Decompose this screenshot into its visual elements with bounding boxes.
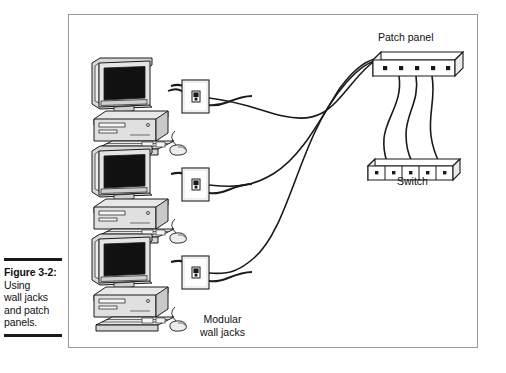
caption-line-4: panels. bbox=[4, 316, 62, 329]
patch-panel bbox=[373, 52, 463, 76]
switch-port-4 bbox=[426, 171, 429, 174]
switch-label: Switch bbox=[397, 175, 428, 188]
caption-line-2: wall jacks bbox=[4, 291, 62, 304]
switch-port-5 bbox=[443, 171, 446, 174]
patch-panel-label: Patch panel bbox=[378, 31, 433, 44]
wall-jack-top bbox=[182, 80, 209, 113]
caption-line-3: and patch bbox=[4, 304, 62, 317]
cable-run-top bbox=[209, 56, 385, 118]
patch-port-3 bbox=[415, 66, 419, 70]
horizontal-cable-runs bbox=[209, 56, 385, 273]
patch-cords bbox=[384, 76, 439, 162]
switch-port-1 bbox=[375, 171, 378, 174]
patch-port-1 bbox=[383, 66, 387, 70]
modular-wall-jacks-line-1: Modular bbox=[204, 313, 242, 325]
workstation-middle bbox=[92, 146, 186, 243]
caption-rule-bottom bbox=[4, 334, 62, 337]
wall-jack-bottom bbox=[182, 256, 209, 289]
figure-page: Figure 3-2: Using wall jacks and patch p… bbox=[0, 0, 506, 373]
patch-cord-2 bbox=[406, 76, 417, 162]
workstation-bottom bbox=[92, 234, 186, 331]
caption-text: Figure 3-2: Using wall jacks and patch p… bbox=[4, 261, 62, 331]
figure-caption: Figure 3-2: Using wall jacks and patch p… bbox=[4, 258, 62, 337]
modular-wall-jacks-line-2: wall jacks bbox=[200, 326, 245, 339]
switch-port-2 bbox=[392, 171, 395, 174]
patch-port-4 bbox=[431, 66, 435, 70]
switch-port-3 bbox=[409, 171, 412, 174]
patch-port-2 bbox=[399, 66, 403, 70]
patch-cord-1 bbox=[384, 76, 400, 162]
cable-run-bottom bbox=[209, 60, 379, 273]
patch-cord-3 bbox=[430, 76, 439, 162]
workstation-top bbox=[92, 58, 186, 155]
wall-jack-middle bbox=[182, 168, 209, 201]
caption-line-1: Using bbox=[4, 279, 62, 292]
patch-port-5 bbox=[446, 66, 450, 70]
figure-number: Figure 3-2: bbox=[4, 266, 62, 279]
modular-wall-jacks-label: Modular wall jacks bbox=[200, 313, 245, 338]
cable-run-middle bbox=[209, 58, 382, 186]
